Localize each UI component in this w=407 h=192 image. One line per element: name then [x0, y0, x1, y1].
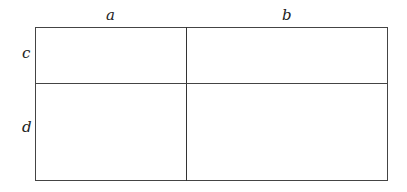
column-label-b: b: [282, 8, 292, 23]
row-label-d: d: [22, 120, 32, 135]
vertical-divider: [186, 27, 187, 181]
row-label-c: c: [22, 46, 30, 61]
grid-rectangle: [35, 27, 388, 181]
column-label-a: a: [106, 8, 115, 23]
horizontal-divider: [35, 83, 388, 84]
